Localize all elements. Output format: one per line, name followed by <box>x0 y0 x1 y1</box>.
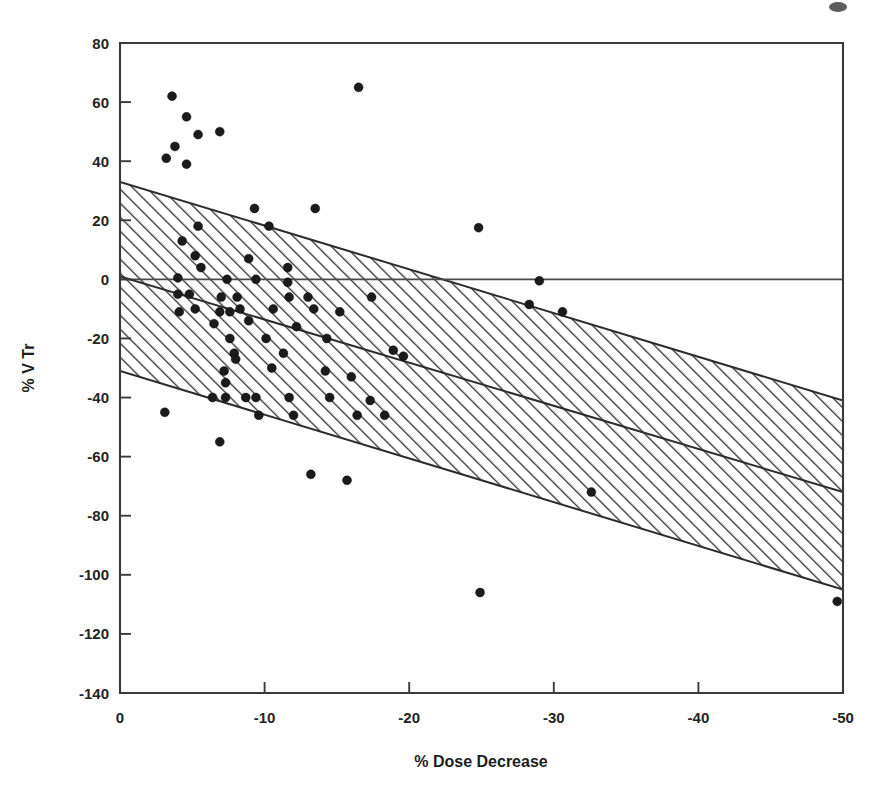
data-point <box>194 130 203 139</box>
y-tick-label: 20 <box>92 212 109 229</box>
x-tick-label: -20 <box>398 709 420 726</box>
data-point <box>525 300 534 309</box>
x-axis-title: % Dose Decrease <box>414 753 548 770</box>
data-point <box>343 476 352 485</box>
y-tick-label: -100 <box>79 566 109 583</box>
data-point <box>262 334 271 343</box>
data-point <box>303 293 312 302</box>
y-tick-label: 60 <box>92 94 109 111</box>
data-point <box>399 352 408 361</box>
data-point <box>289 411 298 420</box>
data-point <box>335 307 344 316</box>
data-point <box>285 293 294 302</box>
scatter-chart: 806040200-20-40-60-80-100-120-140 0-10-2… <box>0 0 894 801</box>
y-tick-label: -60 <box>87 448 109 465</box>
data-point <box>279 349 288 358</box>
data-point <box>236 304 245 313</box>
data-point <box>389 346 398 355</box>
data-point <box>191 251 200 260</box>
data-point <box>353 411 362 420</box>
data-point <box>221 393 230 402</box>
data-point <box>215 127 224 136</box>
data-point <box>178 236 187 245</box>
data-point <box>170 142 179 151</box>
data-point <box>309 304 318 313</box>
data-point <box>354 83 363 92</box>
data-point <box>367 293 376 302</box>
data-point <box>267 364 276 373</box>
data-point <box>233 293 242 302</box>
data-point <box>476 588 485 597</box>
data-point <box>221 378 230 387</box>
data-point <box>380 411 389 420</box>
x-tick-label: -40 <box>688 709 710 726</box>
scan-smudge-artifact <box>829 2 847 12</box>
data-point <box>182 160 191 169</box>
data-point <box>215 307 224 316</box>
y-tick-label: -20 <box>87 330 109 347</box>
data-point <box>220 366 229 375</box>
data-point <box>306 470 315 479</box>
y-axis-title: % V Tr <box>20 344 37 393</box>
data-point <box>244 254 253 263</box>
data-point <box>251 393 260 402</box>
data-point <box>185 290 194 299</box>
data-point <box>269 304 278 313</box>
data-point <box>209 319 218 328</box>
data-point <box>285 393 294 402</box>
data-point <box>244 316 253 325</box>
figure-container: 806040200-20-40-60-80-100-120-140 0-10-2… <box>0 0 894 801</box>
y-tick-label: 80 <box>92 35 109 52</box>
data-point <box>225 334 234 343</box>
data-point <box>535 276 544 285</box>
data-point <box>223 275 232 284</box>
data-point <box>160 408 169 417</box>
data-point <box>168 92 177 101</box>
data-point <box>283 278 292 287</box>
data-point <box>215 437 224 446</box>
y-tick-label: 40 <box>92 153 109 170</box>
x-tick-label: -10 <box>254 709 276 726</box>
data-point <box>182 112 191 121</box>
data-point <box>264 222 273 231</box>
data-point <box>366 396 375 405</box>
data-point <box>558 307 567 316</box>
data-point <box>175 307 184 316</box>
data-point <box>474 223 483 232</box>
x-tick-label: 0 <box>116 709 124 726</box>
data-point <box>325 393 334 402</box>
data-point <box>173 273 182 282</box>
y-tick-label: -140 <box>79 685 109 702</box>
data-point <box>225 307 234 316</box>
data-point <box>173 290 182 299</box>
x-tick-label: -50 <box>832 709 854 726</box>
data-point <box>231 355 240 364</box>
x-tick-label: -30 <box>543 709 565 726</box>
data-point <box>251 275 260 284</box>
data-point <box>191 304 200 313</box>
data-point <box>250 204 259 213</box>
data-point <box>322 334 331 343</box>
data-point <box>162 154 171 163</box>
data-point <box>587 488 596 497</box>
data-point <box>347 372 356 381</box>
y-tick-label: -120 <box>79 625 109 642</box>
data-point <box>241 393 250 402</box>
data-point <box>194 222 203 231</box>
data-point <box>196 263 205 272</box>
y-tick-label: -40 <box>87 389 109 406</box>
data-point <box>311 204 320 213</box>
data-point <box>833 597 842 606</box>
data-point <box>254 411 263 420</box>
y-tick-label: 0 <box>101 271 109 288</box>
data-point <box>292 322 301 331</box>
data-point <box>321 366 330 375</box>
y-tick-label: -80 <box>87 507 109 524</box>
data-point <box>208 393 217 402</box>
data-point <box>283 263 292 272</box>
data-point <box>217 293 226 302</box>
